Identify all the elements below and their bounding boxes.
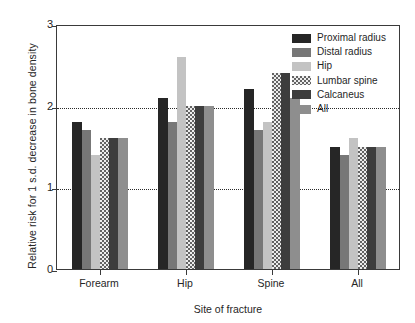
legend-item-calcaneus[interactable]: Calcaneus bbox=[292, 88, 396, 102]
x-tick-label-all: All bbox=[312, 277, 402, 289]
x-tick-label-forearm: Forearm bbox=[54, 277, 144, 289]
bar-forearm-hip bbox=[91, 155, 100, 269]
bar-spine-proximal-radius bbox=[244, 89, 253, 269]
x-tick-mark-forearm bbox=[100, 269, 101, 275]
legend-swatch-icon-hip bbox=[292, 62, 311, 71]
bar-hip-hip bbox=[177, 57, 186, 269]
x-tick-mark-hip bbox=[186, 269, 187, 275]
legend-swatch-icon-distal-radius bbox=[292, 48, 311, 57]
bar-hip-calcaneus bbox=[195, 106, 204, 269]
bar-hip-distal-radius bbox=[168, 122, 177, 269]
y-tick-mark-2 bbox=[52, 108, 57, 109]
legend-label: All bbox=[317, 104, 328, 114]
bar-hip-proximal-radius bbox=[158, 98, 167, 270]
y-tick-label-3: 3 bbox=[37, 18, 53, 30]
legend-label: Lumbar spine bbox=[317, 76, 378, 86]
legend-swatch-icon-lumbar-spine bbox=[292, 76, 311, 85]
bar-spine-lumbar-spine bbox=[272, 73, 281, 269]
bar-all-proximal-radius bbox=[330, 147, 339, 270]
y-tick-mark-1 bbox=[52, 189, 57, 190]
legend-label: Proximal radius bbox=[317, 33, 386, 43]
y-tick-label-0: 0 bbox=[37, 263, 53, 275]
bar-spine-distal-radius bbox=[254, 130, 263, 269]
bar-all-lumbar-spine bbox=[358, 147, 367, 270]
legend-label: Distal radius bbox=[317, 47, 372, 57]
bar-forearm-calcaneus bbox=[109, 138, 118, 269]
x-tick-mark-spine bbox=[272, 269, 273, 275]
x-tick-label-spine: Spine bbox=[226, 277, 316, 289]
bar-forearm-proximal-radius bbox=[72, 122, 81, 269]
x-axis-title: Site of fracture bbox=[56, 303, 400, 315]
bar-hip-lumbar-spine bbox=[186, 106, 195, 269]
legend-item-proximal-radius[interactable]: Proximal radius bbox=[292, 31, 396, 45]
y-tick-label-2: 2 bbox=[37, 100, 53, 112]
bar-hip-all bbox=[204, 106, 213, 269]
bar-spine-all bbox=[290, 98, 299, 270]
legend-item-all[interactable]: All bbox=[292, 102, 396, 116]
bar-spine-hip bbox=[263, 122, 272, 269]
x-tick-mark-all bbox=[358, 269, 359, 275]
bar-all-calcaneus bbox=[367, 147, 376, 270]
y-tick-mark-0 bbox=[52, 271, 57, 272]
chart-legend: Proximal radiusDistal radiusHipLumbar sp… bbox=[288, 26, 399, 120]
y-tick-label-1: 1 bbox=[37, 181, 53, 193]
x-tick-label-hip: Hip bbox=[140, 277, 230, 289]
y-tick-mark-3 bbox=[52, 26, 57, 27]
y-axis-title: Relative risk for 1 s.d. decrease in bon… bbox=[26, 31, 38, 281]
bar-forearm-lumbar-spine bbox=[100, 138, 109, 269]
bar-all-distal-radius bbox=[340, 155, 349, 269]
legend-label: Hip bbox=[317, 61, 332, 71]
legend-item-hip[interactable]: Hip bbox=[292, 59, 396, 73]
legend-item-distal-radius[interactable]: Distal radius bbox=[292, 45, 396, 59]
legend-swatch-icon-calcaneus bbox=[292, 90, 311, 99]
legend-swatch-icon-all bbox=[292, 105, 311, 114]
legend-item-lumbar-spine[interactable]: Lumbar spine bbox=[292, 74, 396, 88]
bar-all-hip bbox=[349, 138, 358, 269]
bar-forearm-distal-radius bbox=[82, 130, 91, 269]
legend-label: Calcaneus bbox=[317, 90, 364, 100]
bar-chart-figure: Relative risk for 1 s.d. decrease in bon… bbox=[0, 0, 415, 323]
legend-swatch-icon-proximal-radius bbox=[292, 34, 311, 43]
bar-forearm-all bbox=[118, 138, 127, 269]
bar-all-all bbox=[376, 147, 385, 270]
